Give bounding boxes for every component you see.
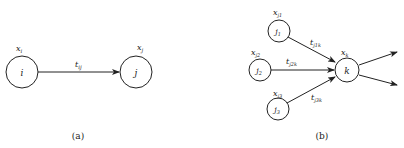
edge-k-out-upper	[359, 52, 397, 65]
var-x-i: xi	[16, 44, 23, 54]
var-x-j2: xj2	[251, 48, 260, 59]
edge-k-out-lower	[359, 75, 397, 85]
node-k-label: k	[344, 66, 349, 76]
node-i-label: i	[21, 68, 24, 78]
var-x-j: xj	[137, 43, 144, 54]
caption-b: (b)	[316, 131, 329, 141]
var-x-k: xk	[341, 48, 349, 58]
panel-a: i j xi xj tij (a)	[6, 43, 152, 141]
diagram-canvas: i j xi xj tij (a) j1 j2 j3 k xj1 xj2 xj3…	[0, 0, 404, 148]
caption-a: (a)	[72, 131, 84, 141]
edge-label-t-j3k: tj3k	[311, 93, 322, 104]
edge-label-t-j2k: tj2k	[286, 57, 297, 68]
var-x-j1: xj1	[273, 8, 282, 19]
edge-label-t-j1k: tj1k	[310, 38, 321, 49]
edge-label-t-ij: tij	[75, 60, 82, 71]
panel-b: j1 j2 j3 k xj1 xj2 xj3 xk tj1k tj2k tj3k…	[249, 8, 397, 141]
